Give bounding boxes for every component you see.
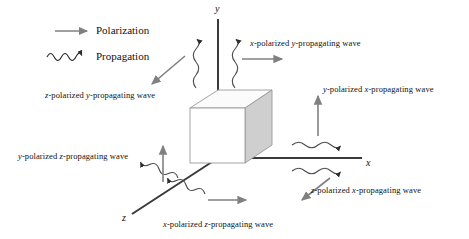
wave-label-suffix: -propagating wave bbox=[63, 151, 128, 161]
wave-z-pol-y-prop-polarization bbox=[152, 56, 185, 84]
wave-label-mid: -polarized bbox=[254, 38, 292, 48]
wave-label-z-pol-x-prop: z-polarized x-propagating wave bbox=[311, 186, 421, 195]
z-axis-line bbox=[132, 158, 218, 214]
wave-x-pol-y-prop-propagation bbox=[232, 40, 238, 89]
wave-y-pol-x-prop-propagation bbox=[292, 142, 341, 148]
legend-label-polarization: Polarization bbox=[96, 25, 149, 36]
wave-label-y-pol-x-prop: y-polarized x-propagating wave bbox=[323, 85, 434, 94]
wave-label-y-pol-z-prop: y-polarized z-propagating wave bbox=[18, 152, 128, 161]
wave-label-suffix: -propagating wave bbox=[295, 38, 360, 48]
wave-label-suffix: -propagating wave bbox=[356, 185, 421, 195]
wave-label-mid: -polarized bbox=[22, 151, 60, 161]
diagram-canvas: Polarization Propagation y x z z-polariz… bbox=[0, 0, 469, 239]
wave-label-z-pol-y-prop: z-polarized y-propagating wave bbox=[45, 91, 155, 100]
wave-z-pol-y-prop-propagation bbox=[193, 40, 199, 89]
wave-label-x-pol-y-prop: x-polarized y-propagating wave bbox=[250, 39, 361, 48]
wave-label-suffix: -propagating wave bbox=[90, 90, 155, 100]
wave-label-suffix: -propagating wave bbox=[368, 84, 433, 94]
axis-label-y: y bbox=[215, 4, 219, 14]
wave-label-suffix: -propagating wave bbox=[208, 219, 273, 229]
wave-label-x-pol-z-prop: x-polarized z-propagating wave bbox=[163, 220, 273, 229]
legend-propagation-wave-icon bbox=[47, 53, 82, 60]
wave-label-mid: -polarized bbox=[167, 219, 205, 229]
axis-label-z: z bbox=[122, 213, 126, 223]
wave-y-pol-z-prop-propagation bbox=[141, 162, 179, 178]
wave-label-mid: -polarized bbox=[48, 90, 86, 100]
legend-label-propagation: Propagation bbox=[96, 51, 149, 62]
wave-label-mid: -polarized bbox=[327, 84, 365, 94]
cube-front-face bbox=[190, 108, 245, 163]
wave-z-pol-x-prop-propagation bbox=[292, 168, 341, 174]
wave-label-mid: -polarized bbox=[314, 185, 352, 195]
diagram-vector-layer bbox=[0, 0, 469, 239]
axis-label-x: x bbox=[366, 158, 370, 168]
